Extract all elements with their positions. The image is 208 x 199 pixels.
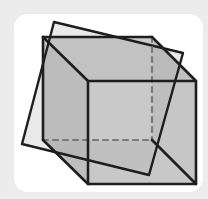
cube-plane-diagram <box>0 0 208 199</box>
